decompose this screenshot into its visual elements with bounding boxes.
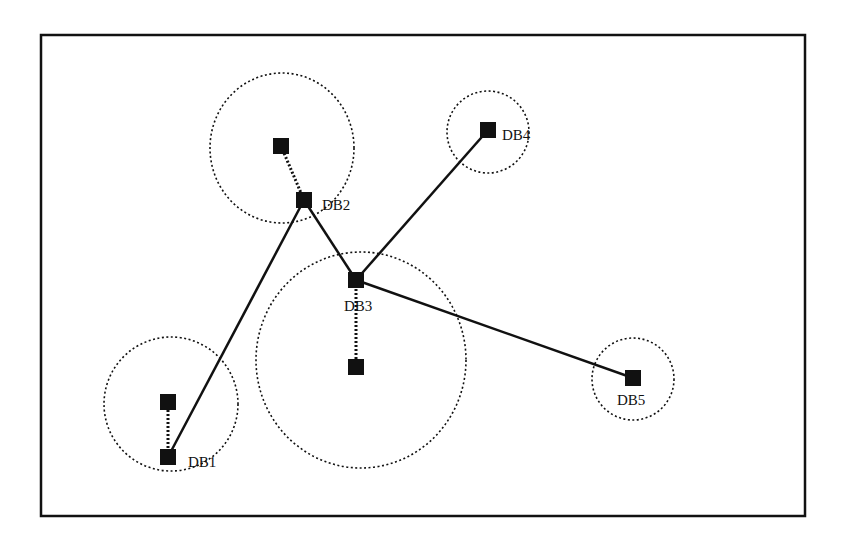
node-db4[interactable]	[480, 122, 496, 138]
label-db4: DB4	[502, 127, 531, 143]
cluster-circles	[104, 73, 674, 471]
link-db3-db4	[356, 130, 488, 280]
diagram-frame	[41, 35, 805, 516]
node-db5[interactable]	[625, 370, 641, 386]
nodes	[160, 122, 641, 465]
label-db1: DB1	[188, 454, 216, 470]
node-db2-site[interactable]	[273, 138, 289, 154]
node-db3[interactable]	[348, 272, 364, 288]
node-db1[interactable]	[160, 449, 176, 465]
label-db5: DB5	[617, 392, 645, 408]
node-db2[interactable]	[296, 192, 312, 208]
node-db3-site[interactable]	[348, 359, 364, 375]
dotted-links	[168, 146, 356, 457]
label-db2: DB2	[322, 197, 350, 213]
link-db3-db5	[356, 280, 633, 378]
label-db3: DB3	[344, 298, 372, 314]
dotted-link-n2-db2	[281, 146, 304, 200]
node-db1-site[interactable]	[160, 394, 176, 410]
solid-links	[168, 130, 633, 457]
network-diagram: DB1 DB2 DB3 DB4 DB5	[0, 0, 843, 539]
